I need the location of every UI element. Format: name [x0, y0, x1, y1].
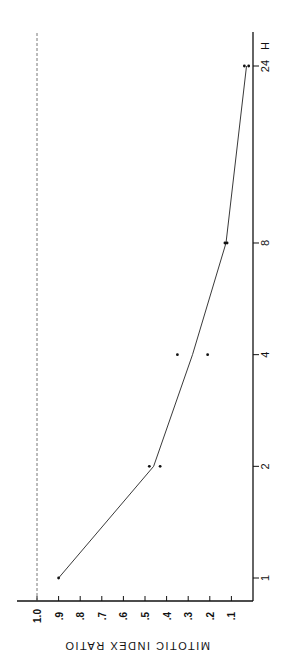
- time-tick-label: 2: [259, 463, 271, 469]
- time-tick-label: 1: [259, 575, 271, 581]
- value-tick-label: .8: [75, 611, 86, 620]
- time-tick-label: 24: [259, 60, 271, 72]
- chart-svg: 1.0.9.8.7.6.5.4.3.2.1124824HMITOTIC INDE…: [0, 0, 285, 670]
- data-point: [176, 353, 179, 356]
- axes: [17, 32, 259, 601]
- value-tick-label: .9: [54, 611, 65, 620]
- data-point: [159, 465, 162, 468]
- data-point: [247, 65, 250, 68]
- time-tick-label: 8: [259, 240, 271, 246]
- time-tick-label: 4: [259, 352, 271, 358]
- plot-area: [37, 33, 250, 601]
- data-point: [243, 65, 246, 68]
- value-tick-label: .4: [162, 611, 173, 620]
- axis-labels: 1.0.9.8.7.6.5.4.3.2.1124824HMITOTIC INDE…: [32, 42, 271, 652]
- data-point: [57, 577, 60, 580]
- value-axis-title: MITOTIC INDEX RATIO: [64, 640, 210, 652]
- data-point: [148, 465, 151, 468]
- chart: 1.0.9.8.7.6.5.4.3.2.1124824HMITOTIC INDE…: [0, 0, 285, 670]
- data-point: [226, 242, 229, 245]
- value-tick-label: 1.0: [32, 609, 43, 623]
- data-point: [206, 353, 209, 356]
- value-tick-label: .1: [226, 611, 237, 620]
- value-tick-label: .3: [183, 611, 194, 620]
- mean-line: [59, 66, 247, 578]
- value-tick-label: .2: [205, 611, 216, 620]
- time-unit-label: H: [259, 42, 271, 50]
- value-tick-label: .7: [97, 611, 108, 620]
- value-tick-label: .5: [140, 611, 151, 620]
- value-tick-label: .6: [118, 611, 129, 620]
